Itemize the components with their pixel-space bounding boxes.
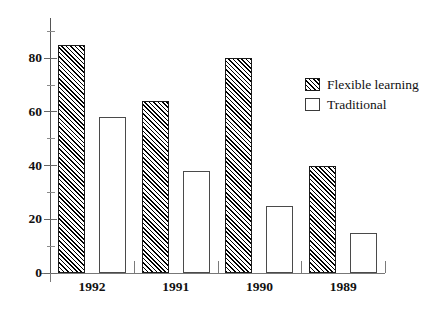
y-axis-tick-label: 80: [12, 51, 42, 65]
bar-chart-figure: 020406080 1992199119901989 Flexible lear…: [0, 0, 444, 310]
y-axis-tick-label: 0: [12, 266, 42, 280]
legend-label: Traditional: [327, 98, 387, 112]
bar-1992-flexible-learning: [58, 45, 85, 273]
y-axis-tick-label: 40: [12, 159, 42, 173]
plot-area: [50, 18, 385, 273]
x-axis-category-label: 1989: [313, 280, 373, 294]
x-axis-category-label: 1991: [146, 280, 206, 294]
hatched-swatch-icon: [305, 78, 320, 91]
bar-1991-traditional: [183, 171, 210, 273]
x-axis-end-tick: [385, 261, 386, 273]
x-axis-category-label: 1992: [62, 280, 122, 294]
clipped-title-text: [44, 0, 434, 2]
x-axis-origin-tick: [50, 273, 51, 282]
bar-1989-traditional: [350, 233, 377, 273]
y-axis-tick-label: 60: [12, 105, 42, 119]
legend-label: Flexible learning: [327, 78, 419, 92]
bar-1990-traditional: [266, 206, 293, 273]
bar-1989-flexible-learning: [309, 166, 336, 273]
y-axis-tick-labels: 020406080: [0, 0, 42, 310]
x-axis-category-label: 1990: [229, 280, 289, 294]
legend-item-traditional: Traditional: [305, 96, 419, 113]
chart-legend: Flexible learning Traditional: [305, 76, 419, 113]
plain-swatch-icon: [305, 98, 320, 111]
x-axis-line: [40, 273, 385, 274]
bar-1992-traditional: [99, 117, 126, 273]
bar-1990-flexible-learning: [225, 58, 252, 273]
bar-1991-flexible-learning: [142, 101, 169, 273]
legend-item-flexible-learning: Flexible learning: [305, 76, 419, 93]
y-axis-tick-label: 20: [12, 212, 42, 226]
